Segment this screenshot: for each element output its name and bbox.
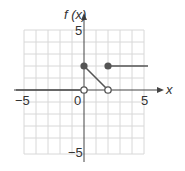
y-tick-5: 5: [75, 23, 82, 38]
open-point-0-0: [81, 87, 87, 93]
x-tick-0: 0: [74, 93, 81, 108]
x-axis-arrow-icon: [157, 87, 164, 93]
y-tick-neg5: −5: [68, 145, 83, 160]
x-tick-neg5: −5: [15, 93, 30, 108]
filled-point-0-2: [80, 62, 87, 69]
filled-point-2-2: [104, 62, 111, 69]
function-graph: x f (x) −5 0 5 5 −5: [0, 0, 185, 171]
segment-middle: [84, 66, 106, 88]
x-axis-label: x: [165, 82, 173, 97]
x-tick-5: 5: [141, 93, 148, 108]
y-axis-label: f (x): [64, 7, 86, 22]
open-point-2-0: [105, 87, 111, 93]
